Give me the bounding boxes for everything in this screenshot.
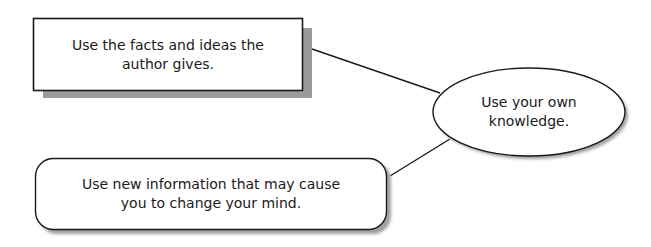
node-knowledge-line-2: knowledge. [481, 112, 576, 131]
node-new-info-line-2: you to change your mind. [82, 194, 340, 213]
node-facts-line-2: author gives. [72, 55, 264, 74]
connector-facts-knowledge [312, 49, 440, 93]
node-facts-label: Use the facts and ideas the author gives… [34, 19, 302, 90]
node-new-info-label: Use new information that may cause you t… [36, 159, 386, 229]
node-knowledge-label: Use your own knowledge. [433, 68, 625, 156]
node-knowledge-line-1: Use your own [481, 93, 576, 112]
node-new-info-line-1: Use new information that may cause [82, 175, 340, 194]
node-facts-line-1: Use the facts and ideas the [72, 36, 264, 55]
